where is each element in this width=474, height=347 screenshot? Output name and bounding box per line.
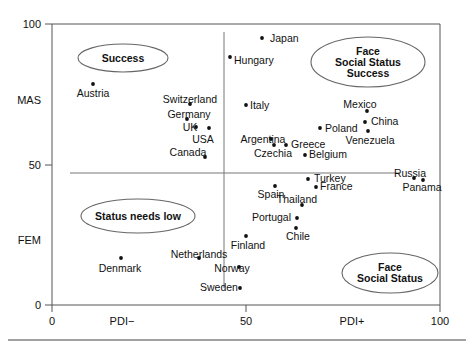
point-marker[interactable] bbox=[228, 55, 232, 59]
point-label: Finland bbox=[231, 239, 266, 251]
point-marker[interactable] bbox=[306, 177, 310, 181]
point-label: Panama bbox=[402, 181, 441, 193]
point-marker[interactable] bbox=[295, 216, 299, 220]
point-label: China bbox=[371, 115, 399, 127]
annotation-text-face-social-status-line-1: Social Status bbox=[357, 272, 423, 284]
data-point-chile[interactable]: Chile bbox=[286, 226, 310, 242]
x-axis-label-pdi-low: PDI− bbox=[110, 315, 135, 327]
point-label: Denmark bbox=[99, 262, 142, 274]
annotation-ellipses: SuccessFaceSocial StatusSuccessStatus ne… bbox=[78, 37, 438, 293]
x-tick-label-50: 50 bbox=[240, 315, 252, 327]
annotation-success: Success bbox=[78, 44, 168, 72]
data-point-switzerland[interactable]: Switzerland bbox=[163, 93, 217, 106]
point-label: Venezuela bbox=[345, 134, 394, 146]
point-marker[interactable] bbox=[318, 126, 322, 130]
point-label: Switzerland bbox=[163, 93, 217, 105]
data-point-netherlands[interactable]: Netherlands bbox=[171, 248, 228, 260]
data-point-china[interactable]: China bbox=[363, 115, 398, 127]
data-point-sweden[interactable]: Sweden bbox=[200, 281, 242, 293]
point-label: Netherlands bbox=[171, 248, 228, 260]
point-label: Belgium bbox=[309, 148, 347, 160]
data-point-panama[interactable]: Panama bbox=[402, 178, 441, 193]
y-tick-label-100: 100 bbox=[23, 18, 41, 30]
point-label: Chile bbox=[286, 230, 310, 242]
chart-svg: 100 50 0 0 50 100 MAS FEM PDI− PDI+ Succ… bbox=[0, 0, 474, 347]
point-label: France bbox=[320, 180, 353, 192]
point-marker[interactable] bbox=[244, 234, 248, 238]
data-point-portugal[interactable]: Portugal bbox=[252, 211, 299, 223]
point-label: Sweden bbox=[200, 281, 238, 293]
point-label: Mexico bbox=[343, 98, 376, 110]
y-tick-label-0: 0 bbox=[35, 299, 41, 311]
data-point-finland[interactable]: Finland bbox=[231, 234, 266, 251]
point-label: Hungary bbox=[234, 54, 274, 66]
scatter-plot-figure: 100 50 0 0 50 100 MAS FEM PDI− PDI+ Succ… bbox=[0, 0, 474, 347]
point-label: Austria bbox=[77, 87, 110, 99]
annotation-status-needs-low: Status needs low bbox=[81, 199, 195, 233]
point-marker[interactable] bbox=[269, 137, 273, 141]
point-label: Thailand bbox=[277, 193, 317, 205]
data-point-argentina[interactable]: Argentina bbox=[241, 133, 286, 147]
point-label: USA bbox=[192, 133, 214, 145]
point-marker[interactable] bbox=[260, 36, 264, 40]
point-label: Germany bbox=[167, 108, 211, 120]
point-marker[interactable] bbox=[244, 103, 248, 107]
y-axis-label-fem: FEM bbox=[18, 234, 41, 246]
data-point-germany[interactable]: Germany bbox=[167, 108, 211, 121]
point-label: UK bbox=[183, 121, 198, 133]
data-point-hungary[interactable]: Hungary bbox=[228, 54, 274, 66]
point-label: Canada bbox=[170, 146, 207, 158]
annotation-text-status-needs-low-line-0: Status needs low bbox=[95, 210, 182, 222]
y-tick-label-50: 50 bbox=[29, 159, 41, 171]
data-point-austria[interactable]: Austria bbox=[77, 82, 110, 99]
x-tick-label-0: 0 bbox=[49, 315, 55, 327]
point-marker[interactable] bbox=[119, 256, 123, 260]
point-marker[interactable] bbox=[303, 153, 307, 157]
point-marker[interactable] bbox=[366, 129, 370, 133]
annotation-face-social-status: FaceSocial Status bbox=[342, 253, 438, 293]
data-point-mexico[interactable]: Mexico bbox=[343, 98, 376, 113]
point-label: Poland bbox=[325, 122, 358, 134]
data-point-denmark[interactable]: Denmark bbox=[99, 256, 142, 274]
point-label: Czechia bbox=[254, 147, 292, 159]
data-point-thailand[interactable]: Thailand bbox=[277, 193, 317, 207]
annotation-text-face-social-status-success-line-2: Success bbox=[347, 67, 390, 79]
point-marker[interactable] bbox=[314, 185, 318, 189]
point-label: Italy bbox=[250, 99, 270, 111]
data-point-canada[interactable]: Canada bbox=[170, 146, 207, 159]
point-marker[interactable] bbox=[284, 143, 288, 147]
point-marker[interactable] bbox=[91, 82, 95, 86]
data-point-italy[interactable]: Italy bbox=[244, 99, 270, 111]
x-axis-label-pdi-high: PDI+ bbox=[340, 315, 365, 327]
data-point-russia[interactable]: Russia bbox=[394, 167, 426, 180]
data-point-japan[interactable]: Japan bbox=[260, 32, 299, 44]
point-label: Japan bbox=[270, 32, 299, 44]
point-marker[interactable] bbox=[207, 126, 211, 130]
point-marker[interactable] bbox=[363, 120, 367, 124]
point-label: Norway bbox=[214, 262, 250, 274]
point-label: Argentina bbox=[241, 133, 286, 145]
data-point-france[interactable]: France bbox=[314, 180, 353, 192]
annotation-text-success-line-0: Success bbox=[102, 52, 145, 64]
x-tick-label-100: 100 bbox=[431, 315, 449, 327]
annotation-face-social-status-success: FaceSocial StatusSuccess bbox=[311, 37, 425, 87]
data-point-uk[interactable]: UK bbox=[183, 121, 198, 133]
data-point-poland[interactable]: Poland bbox=[318, 122, 358, 134]
data-point-norway[interactable]: Norway bbox=[214, 262, 250, 274]
point-marker[interactable] bbox=[238, 286, 242, 290]
point-label: Russia bbox=[394, 167, 426, 179]
data-point-belgium[interactable]: Belgium bbox=[303, 148, 347, 160]
point-label: Portugal bbox=[252, 211, 291, 223]
y-axis-label-mas: MAS bbox=[17, 94, 41, 106]
